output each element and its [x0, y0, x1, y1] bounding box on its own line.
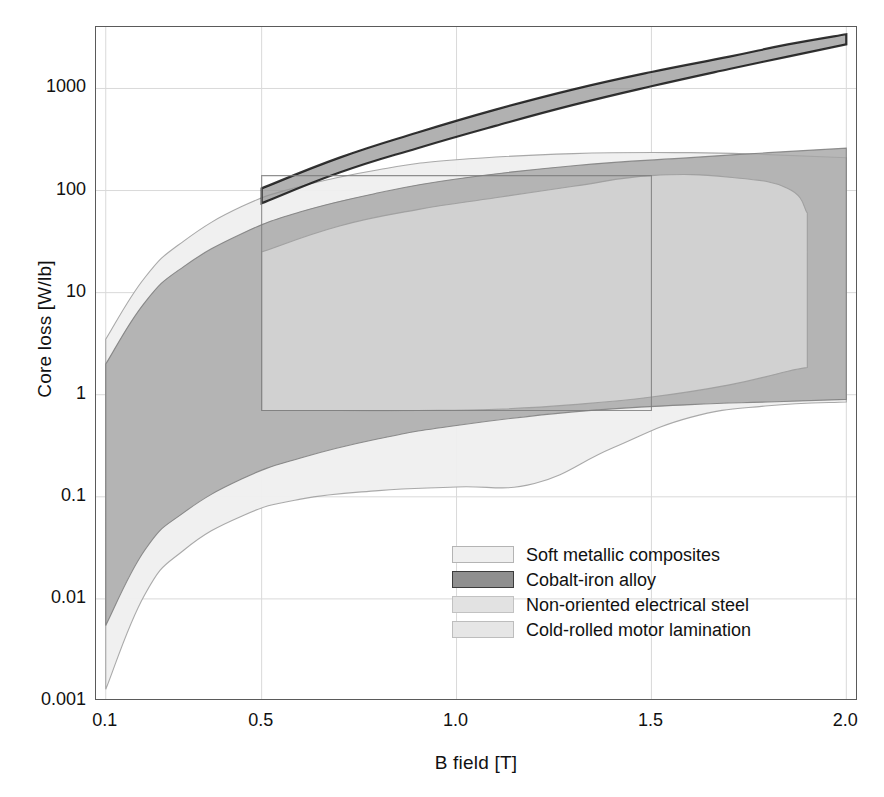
legend-swatch	[452, 621, 514, 638]
y-tick-label: 100	[8, 179, 86, 200]
x-axis-title: B field [T]	[95, 752, 857, 774]
y-tick-label: 0.1	[8, 485, 86, 506]
legend-item: Cold-rolled motor lamination	[452, 617, 782, 642]
legend-item: Non-oriented electrical steel	[452, 592, 782, 617]
x-tick-label: 0.1	[60, 710, 150, 731]
legend-item: Cobalt-iron alloy	[452, 567, 782, 592]
legend-swatch	[452, 596, 514, 613]
legend-label: Non-oriented electrical steel	[526, 596, 749, 614]
legend-label: Cobalt-iron alloy	[526, 571, 656, 589]
x-tick-label: 2.0	[800, 710, 884, 731]
y-axis-tick-labels: 10001001010.10.010.001	[0, 0, 86, 797]
legend-label: Cold-rolled motor lamination	[526, 621, 751, 639]
chart-figure: Core loss [W/lb] B field [T] 10001001010…	[0, 0, 884, 797]
chart-legend: Soft metallic compositesCobalt-iron allo…	[452, 542, 782, 642]
legend-swatch	[452, 546, 514, 563]
x-tick-label: 0.5	[216, 710, 306, 731]
legend-item: Soft metallic composites	[452, 542, 782, 567]
y-tick-label: 0.01	[8, 587, 86, 608]
x-tick-label: 1.0	[411, 710, 501, 731]
x-tick-label: 1.5	[605, 710, 695, 731]
legend-label: Soft metallic composites	[526, 546, 720, 564]
y-tick-label: 0.001	[8, 689, 86, 710]
legend-swatch	[452, 571, 514, 588]
y-tick-label: 10	[8, 281, 86, 302]
y-tick-label: 1000	[8, 76, 86, 97]
y-tick-label: 1	[8, 383, 86, 404]
